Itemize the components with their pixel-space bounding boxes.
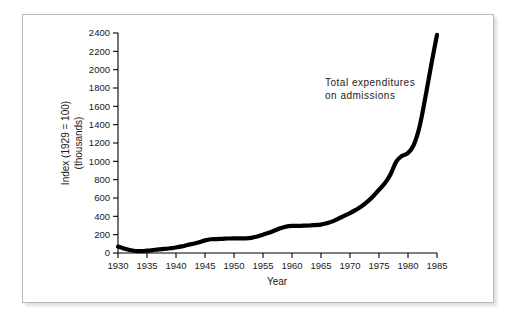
chart-canvas: 0200400600800100012001400160018002000220…: [0, 0, 509, 320]
y-tick-label: 2400: [89, 27, 110, 38]
x-tick-label: 1975: [368, 260, 389, 271]
x-axis-title: Year: [267, 276, 288, 287]
y-tick-label: 1200: [89, 137, 110, 148]
x-tick-label: 1930: [107, 260, 128, 271]
x-tick-label: 1945: [194, 260, 215, 271]
y-tick-label: 0: [105, 247, 110, 258]
y-tick-label: 1000: [89, 156, 110, 167]
y-tick-label: 200: [94, 229, 110, 240]
x-tick-label: 1970: [339, 260, 360, 271]
x-tick-label: 1985: [426, 260, 447, 271]
x-tick-label: 1955: [252, 260, 273, 271]
data-series-line: [118, 35, 437, 251]
y-tick-label: 1400: [89, 119, 110, 130]
x-tick-label: 1965: [310, 260, 331, 271]
y-axis-title-line1: Index (1929 = 100): [60, 101, 71, 185]
y-tick-label: 2000: [89, 64, 110, 75]
annotation-line-2: on admissions: [325, 90, 395, 101]
x-tick-label: 1935: [136, 260, 157, 271]
x-tick-label: 1980: [397, 260, 418, 271]
y-tick-label: 800: [94, 174, 110, 185]
y-axis-tick-labels: 0200400600800100012001400160018002000220…: [89, 27, 110, 258]
x-tick-label: 1940: [165, 260, 186, 271]
annotation-line-1: Total expenditures: [325, 77, 415, 88]
y-tick-label: 400: [94, 211, 110, 222]
x-tick-label: 1950: [223, 260, 244, 271]
y-axis-title: Index (1929 = 100) (thousands): [60, 101, 84, 185]
x-axis-tick-labels: 1930193519401945195019551960196519701975…: [107, 260, 447, 271]
y-tick-label: 1600: [89, 101, 110, 112]
x-tick-label: 1960: [281, 260, 302, 271]
y-axis-ticks: [113, 33, 118, 253]
x-axis-ticks: [118, 253, 437, 258]
y-tick-label: 1800: [89, 82, 110, 93]
y-tick-label: 600: [94, 192, 110, 203]
y-axis-title-line2: (thousands): [73, 117, 84, 170]
series-annotation: Total expenditures on admissions: [325, 77, 415, 101]
y-tick-label: 2200: [89, 46, 110, 57]
